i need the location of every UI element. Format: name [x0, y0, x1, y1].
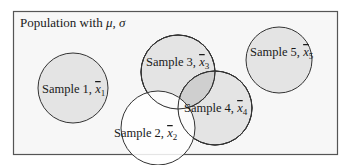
sample-2-label: Sample 2, x2 [114, 126, 177, 142]
sample-1-circle: Sample 1, x1 [38, 53, 108, 123]
sample-5-label: Sample 5, x5 [250, 45, 314, 61]
sampling-diagram: Population with μ, σ Sample 1, x1 Sample… [0, 0, 350, 165]
sample-3-label: Sample 3, x3 [146, 55, 210, 71]
sample-1-label: Sample 1, x1 [42, 82, 105, 98]
population-label: Population with μ, σ [20, 15, 126, 30]
sample-4-label: Sample 4, x4 [184, 101, 248, 117]
